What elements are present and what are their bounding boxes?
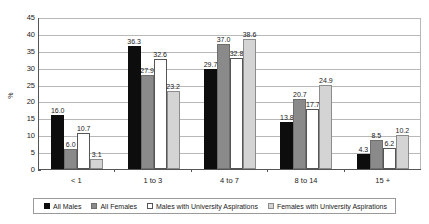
bar-value-label: 20.7 [293,91,307,98]
y-tick-label: 20 [27,99,35,107]
bar-group: 29.737.032.838.6 [192,18,268,169]
bar[interactable] [280,122,293,169]
bar-value-label: 17.7 [306,101,320,108]
bar-value-label: 3.1 [92,151,102,158]
x-tick-mark [344,169,345,172]
legend-label: Males with University Aspirations [156,203,258,210]
legend-item[interactable]: All Males [44,203,81,210]
legend-item[interactable]: All Females [91,203,137,210]
x-tick-mark [191,169,192,172]
bar-value-label: 6.2 [384,140,394,147]
bar-chart: % 051015202530354045 16.06.010.73.136.32… [0,0,429,224]
y-tick-label: 10 [27,132,35,140]
bar-slot: 6.0 [64,18,77,169]
bar-group: 16.06.010.73.1 [39,18,115,169]
bar[interactable] [77,133,90,169]
y-tick-label: 40 [27,31,35,39]
legend-label: All Females [100,203,137,210]
legend-swatch-icon [147,203,153,209]
bar-value-label: 10.2 [396,127,410,134]
bar[interactable] [90,159,103,169]
legend-label: Females with University Aspirations [277,203,387,210]
legend-item[interactable]: Males with University Aspirations [147,203,258,210]
bar-value-label: 6.0 [66,141,76,148]
bar-slot: 4.3 [357,18,370,169]
bar-value-label: 4.3 [358,146,368,153]
x-axis-labels: < 11 to 34 to 78 to 1415 + [38,176,421,185]
bar-value-label: 13.8 [280,114,294,121]
bar[interactable] [64,149,77,169]
bar-value-label: 16.0 [51,107,65,114]
bar[interactable] [51,115,64,169]
y-tick-label: 30 [27,65,35,73]
bar-group: 36.327.932.623.2 [115,18,191,169]
bar[interactable] [154,59,167,169]
chart-legend: All MalesAll FemalesMales with Universit… [33,198,396,214]
bar[interactable] [141,75,154,169]
bar-slot: 13.8 [280,18,293,169]
y-tick-label: 25 [27,82,35,90]
bar-slot: 37.0 [217,18,230,169]
y-tick-label: 5 [31,149,35,157]
bar[interactable] [306,109,319,169]
legend-swatch-icon [44,203,50,209]
bar-slot: 38.6 [243,18,256,169]
y-tick-label: 0 [31,166,35,174]
y-axis-ticks: 051015202530354045 [16,18,38,170]
y-tick-label: 15 [27,116,35,124]
legend-item[interactable]: Females with University Aspirations [268,203,387,210]
y-tick-label: 35 [27,48,35,56]
bar-slot: 20.7 [293,18,306,169]
bar-value-label: 27.9 [140,67,154,74]
bar-groups: 16.06.010.73.136.327.932.623.229.737.032… [39,18,421,169]
y-tick-mark [38,170,41,171]
plot-area: 16.06.010.73.136.327.932.623.229.737.032… [38,18,421,170]
bar-value-label: 32.6 [153,51,167,58]
bar[interactable] [319,85,332,169]
bar[interactable] [396,135,409,169]
bar-value-label: 36.3 [127,38,141,45]
y-tick-label: 45 [27,14,35,22]
bar-slot: 36.3 [128,18,141,169]
bar-slot: 24.9 [319,18,332,169]
bar-slot: 10.7 [77,18,90,169]
bar-value-label: 23.2 [166,83,180,90]
bar[interactable] [167,91,180,169]
bar-value-label: 37.0 [217,36,231,43]
x-axis-label: 8 to 14 [268,176,345,185]
bar-value-label: 24.9 [319,77,333,84]
bar-slot: 6.2 [383,18,396,169]
bar[interactable] [293,99,306,169]
bar-value-label: 10.7 [77,125,91,132]
bar[interactable] [230,58,243,169]
legend-swatch-icon [91,203,97,209]
bar[interactable] [243,39,256,169]
bar[interactable] [128,46,141,169]
bar-group: 13.820.717.724.9 [268,18,344,169]
bar-slot: 32.8 [230,18,243,169]
bar-slot: 8.5 [370,18,383,169]
bar[interactable] [370,140,383,169]
bar[interactable] [204,69,217,169]
x-tick-mark [114,169,115,172]
bar[interactable] [383,148,396,169]
x-tick-mark [267,169,268,172]
bar-slot: 29.7 [204,18,217,169]
bar-slot: 27.9 [141,18,154,169]
bar[interactable] [217,44,230,169]
bar-value-label: 29.7 [204,61,218,68]
legend-swatch-icon [268,203,274,209]
bar-value-label: 32.8 [230,50,244,57]
bar-slot: 10.2 [396,18,409,169]
bar-value-label: 8.5 [371,132,381,139]
y-axis-title: % [7,88,14,104]
x-axis-label: < 1 [38,176,115,185]
bar[interactable] [357,154,370,169]
bar-slot: 3.1 [90,18,103,169]
bar-value-label: 38.6 [243,31,257,38]
legend-label: All Males [53,203,81,210]
bar-slot: 17.7 [306,18,319,169]
bar-slot: 16.0 [51,18,64,169]
x-axis-label: 4 to 7 [191,176,268,185]
bar-slot: 23.2 [167,18,180,169]
